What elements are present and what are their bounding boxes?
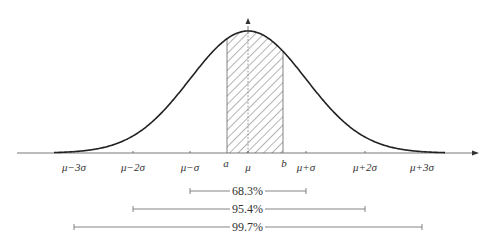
interval-label: 68.3%	[232, 184, 263, 198]
axis-markers: ab	[223, 157, 287, 169]
axis-ticks: μ−3σμ−2σμ−σμμ+σμ+2σμ+3σ	[61, 151, 434, 173]
interval-954: 95.4%	[133, 202, 365, 216]
interval-label: 95.4%	[232, 202, 263, 216]
normal-distribution-diagram: μ−3σμ−2σμ−σμμ+σμ+2σμ+3σ ab 68.3%95.4%99.…	[0, 0, 490, 244]
tick-label: μ+2σ	[352, 161, 377, 173]
marker-label-a: a	[223, 157, 229, 169]
tick-label: μ+3σ	[409, 161, 434, 173]
tick-label: μ−2σ	[120, 161, 145, 173]
interval-683: 68.3%	[190, 184, 306, 198]
tick-label: μ−3σ	[61, 161, 86, 173]
tick-label: μ+σ	[296, 161, 316, 173]
shaded-region	[227, 31, 283, 153]
x-axis-arrow-icon	[472, 151, 479, 156]
marker-label-b: b	[281, 157, 287, 169]
interval-997: 99.7%	[74, 220, 422, 234]
interval-label: 99.7%	[232, 220, 263, 234]
interval-bars: 68.3%95.4%99.7%	[74, 184, 422, 234]
tick-label: μ	[244, 161, 251, 173]
y-axis-arrow-icon	[246, 18, 251, 24]
tick-label: μ−σ	[180, 161, 200, 173]
